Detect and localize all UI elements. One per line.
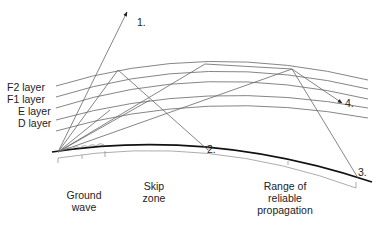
zone-ground-wave-line2: wave	[60, 201, 108, 213]
label-f1-layer: F1 layer	[7, 93, 45, 105]
layer-f2-curve	[56, 61, 368, 86]
layer-f1-curve	[56, 71, 368, 97]
zone-skip: Skip zone	[134, 180, 174, 204]
layer-d-curve	[56, 106, 368, 131]
propagation-diagram	[0, 0, 380, 229]
zone-skip-line1: Skip	[134, 180, 174, 192]
ionosphere-layers	[56, 61, 368, 131]
label-e-layer: E layer	[18, 105, 51, 117]
ray-3	[58, 64, 358, 178]
zone-reliable-line1: Range of	[250, 180, 320, 192]
ray-label-2: 2.	[207, 143, 216, 155]
zone-ground-wave: Ground wave	[60, 189, 108, 213]
zone-reliable-line2: reliable	[250, 192, 320, 204]
zone-reliable-propagation: Range of reliable propagation	[250, 180, 320, 216]
label-f2-layer: F2 layer	[7, 81, 45, 93]
ray-label-3: 3.	[358, 166, 367, 178]
label-d-layer: D layer	[18, 117, 51, 129]
zone-reliable-line3: propagation	[250, 204, 320, 216]
zone-ground-wave-line1: Ground	[60, 189, 108, 201]
ray-label-1: 1.	[137, 16, 146, 28]
zone-skip-line2: zone	[134, 192, 174, 204]
layer-mid-curve	[56, 82, 368, 108]
ray-label-4: 4.	[345, 97, 354, 109]
